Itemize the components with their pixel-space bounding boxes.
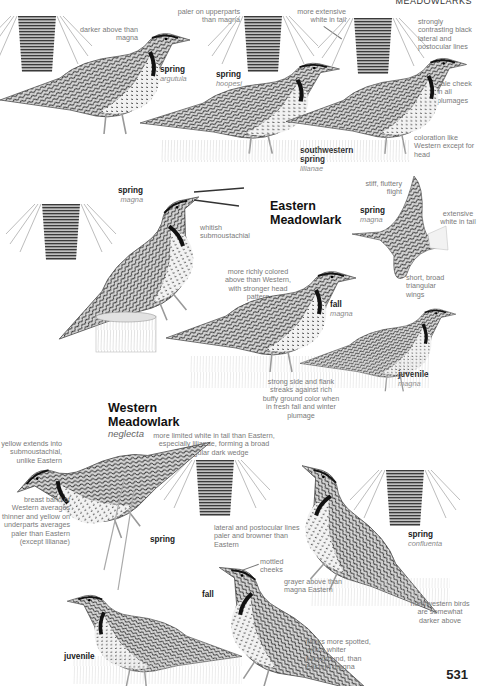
note-paler-lines: lateral and postocular lines paler and b… [214,524,300,549]
page-number: 531 [446,667,468,682]
subspecies-label: lilianae [300,164,353,173]
bird-eastern-magna-flight [352,176,448,286]
fence-post [94,310,158,352]
note-extensive-white-tail: extensive white in tail [440,210,476,227]
note-breast-band: breast band of Western averages thinner … [0,496,70,546]
label-western-juvenile: juvenile [64,652,95,661]
note-flanks-spotted: flanks more spotted, with a whiter backg… [306,638,378,672]
note-darker-above: darker above than magna [74,26,138,43]
note-flank-streaks: strong side and flank streaks against ri… [262,378,340,420]
bird-western-juvenile [52,586,242,686]
grass-tuft [140,140,440,165]
running-header: MEADOWLARKS [395,0,472,6]
label-western-spring: spring [150,535,175,544]
plumage-label: spring [408,530,433,539]
species-title-eastern: Eastern Meadowlark [270,200,342,227]
plumage-label: spring [150,535,175,544]
note-northwestern-darker: northwestern birds are somewhat darker a… [408,600,472,625]
label-confluenta: spring confluenta [408,530,442,548]
note-grayer-above: grayer above than magna Eastern [284,578,354,595]
note-whitish-submoustachial: whitish submoustachial [200,224,260,241]
plumage-label: juvenile [64,652,95,661]
note-contrasting-lines: strongly contrasting black lateral and p… [418,18,476,52]
subspecies-label: confluenta [408,539,442,548]
note-short-wings: short, broad triangular wings [406,274,456,299]
